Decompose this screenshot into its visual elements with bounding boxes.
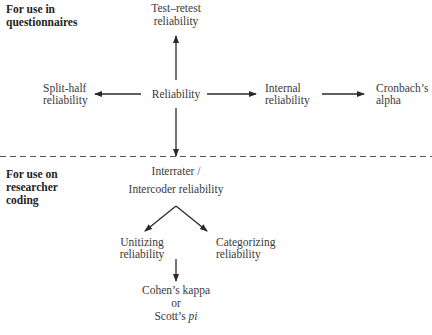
node-cronbach-line2: alpha xyxy=(376,94,401,107)
node-scott-prefix: Scott’s xyxy=(154,310,188,322)
node-interrater-line1: Interrater / xyxy=(152,165,202,177)
node-test-retest-line2: reliability xyxy=(154,15,199,28)
node-split-half-line2: reliability xyxy=(43,94,88,107)
reliability-diagram: For use in questionnaires For use on res… xyxy=(0,0,432,335)
section-label-coding-line1: For use on xyxy=(6,168,58,180)
section-label-questionnaires-line2: questionnaires xyxy=(6,16,78,29)
node-scott-pi: pi xyxy=(188,310,198,323)
node-internal-line2: reliability xyxy=(265,94,310,107)
node-unitizing-line2: reliability xyxy=(120,248,165,261)
node-scott-line: Scott’s pi xyxy=(154,310,197,323)
node-categorizing-line2: reliability xyxy=(216,248,261,261)
node-reliability: Reliability xyxy=(152,88,201,101)
node-cohen-line2: or xyxy=(171,297,181,309)
node-internal-line1: Internal xyxy=(265,82,301,94)
node-test-retest-line1: Test–retest xyxy=(151,2,201,14)
node-interrater-line2: Intercoder reliability xyxy=(129,183,224,196)
section-label-coding-line2: researcher xyxy=(6,181,58,193)
node-cronbach-line1: Cronbach’s xyxy=(376,82,429,94)
section-label-coding-line3: coding xyxy=(6,194,39,207)
arrow-branch-right-icon xyxy=(176,206,207,231)
node-cohen-line1: Cohen’s kappa xyxy=(142,284,210,297)
arrow-branch-left-icon xyxy=(145,206,176,231)
section-label-questionnaires-line1: For use in xyxy=(6,3,56,15)
